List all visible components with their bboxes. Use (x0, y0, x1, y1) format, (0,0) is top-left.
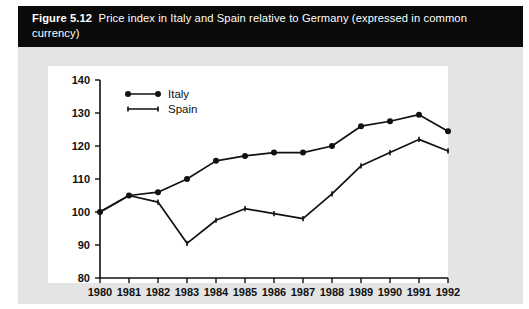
y-tick-label: 120 (72, 140, 90, 152)
x-tick-label: 1990 (378, 286, 402, 298)
data-point-italy (416, 112, 422, 118)
legend-label-italy: Italy (168, 88, 189, 100)
y-tick-label: 100 (72, 206, 90, 218)
x-tick-label: 1988 (320, 286, 344, 298)
x-tick-label: 1980 (88, 286, 112, 298)
data-point-italy (242, 153, 248, 159)
line-chart: 8090100110120130140 19801981198219831984… (0, 0, 529, 309)
data-point-italy (300, 150, 306, 156)
legend-marker-italy (125, 91, 131, 97)
y-tick-label: 90 (78, 239, 90, 251)
legend-marker-italy (155, 91, 161, 97)
x-tick-label: 1985 (233, 286, 257, 298)
figure-root: Figure 5.12 Price index in Italy and Spa… (0, 0, 529, 309)
data-series-group (97, 112, 451, 246)
data-point-italy (445, 128, 451, 134)
x-tick-label: 1991 (407, 286, 431, 298)
x-tick-label: 1987 (291, 286, 315, 298)
x-tick-label: 1989 (349, 286, 373, 298)
x-tick-label: 1982 (146, 286, 170, 298)
x-tick-label: 1981 (117, 286, 141, 298)
x-tick-label: 1984 (204, 286, 229, 298)
data-point-italy (184, 176, 190, 182)
legend-label-spain: Spain (168, 103, 197, 115)
x-tick-marks: 1980198119821983198419851986198719881989… (88, 278, 460, 298)
y-tick-marks: 8090100110120130140 (72, 74, 100, 284)
x-tick-label: 1983 (175, 286, 199, 298)
series-line-italy (100, 115, 448, 212)
y-tick-label: 110 (72, 173, 90, 185)
data-point-italy (358, 123, 364, 129)
data-point-italy (271, 150, 277, 156)
data-point-italy (155, 189, 161, 195)
data-point-italy (387, 118, 393, 124)
y-tick-label: 130 (72, 107, 90, 119)
x-tick-label: 1992 (436, 286, 460, 298)
data-point-italy (329, 143, 335, 149)
y-tick-label: 80 (78, 272, 90, 284)
data-point-italy (213, 158, 219, 164)
x-tick-label: 1986 (262, 286, 286, 298)
chart-legend: ItalySpain (125, 88, 197, 115)
y-tick-label: 140 (72, 74, 90, 86)
